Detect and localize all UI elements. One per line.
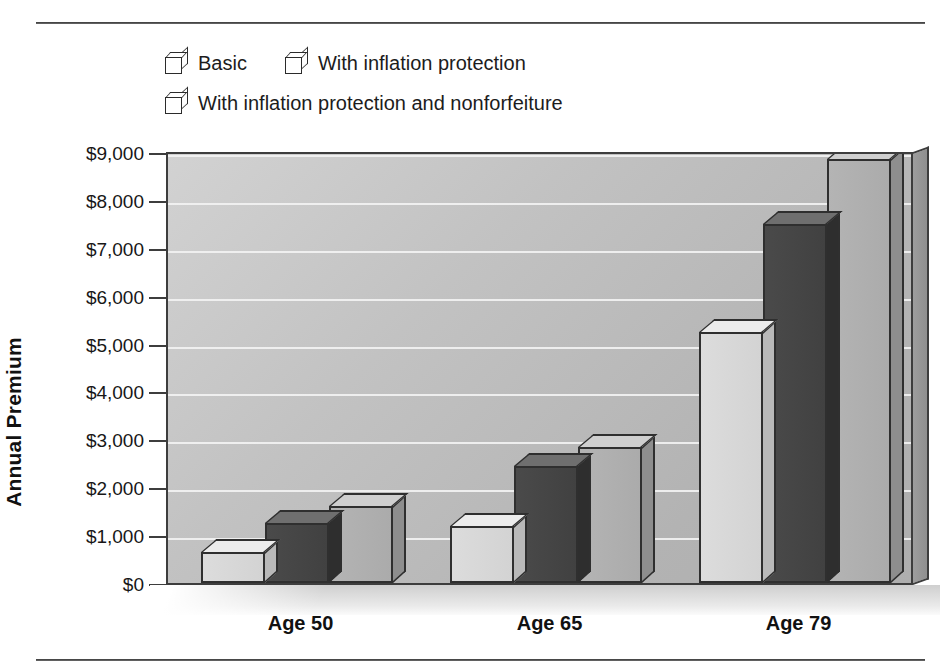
y-tick-label: $6,000 xyxy=(86,287,144,309)
top-divider-rule xyxy=(36,22,925,24)
y-tick-mark xyxy=(149,536,166,538)
plot-depth-wall xyxy=(913,146,929,585)
legend-row-2: With inflation protection and nonforfeit… xyxy=(165,86,805,120)
y-tick-mark xyxy=(149,440,166,442)
y-tick-mark xyxy=(149,392,166,394)
swatch-side-face xyxy=(182,47,188,69)
y-tick-label: $4,000 xyxy=(86,382,144,404)
legend-item-basic: Basic xyxy=(165,52,247,74)
legend-label-inflation: With inflation protection xyxy=(318,53,526,73)
y-tick-mark xyxy=(149,249,166,251)
bar-front-face xyxy=(201,552,265,583)
chart-figure: Basic With inflation protection With inf… xyxy=(0,0,945,670)
x-axis-label-age-65: Age 65 xyxy=(517,612,583,635)
y-tick-mark xyxy=(149,153,166,155)
x-axis-labels: Age 50Age 65Age 79 xyxy=(166,612,926,642)
gridline xyxy=(168,155,911,157)
legend-row-1: Basic With inflation protection xyxy=(165,46,805,80)
bar-side-face xyxy=(642,435,655,583)
y-axis: Annual Premium $9,000$8,000$7,000$6,000$… xyxy=(0,152,166,612)
y-tick-mark xyxy=(149,488,166,490)
bottom-divider-rule xyxy=(36,659,925,661)
light-gray-cube-swatch-icon xyxy=(165,52,187,74)
plot-canvas xyxy=(166,152,913,585)
legend-label-inflation-nonforfeiture: With inflation protection and nonforfeit… xyxy=(198,93,563,113)
y-tick-label: $3,000 xyxy=(86,430,144,452)
y-tick-label: $8,000 xyxy=(86,191,144,213)
swatch-front-face xyxy=(165,57,182,74)
chart-floor xyxy=(150,585,940,615)
bar-side-face xyxy=(827,212,840,583)
chart-legend: Basic With inflation protection With inf… xyxy=(165,46,805,120)
medium-gray-cube-swatch-icon xyxy=(165,92,187,114)
swatch-front-face xyxy=(165,97,182,114)
y-tick-label: $2,000 xyxy=(86,478,144,500)
legend-label-basic: Basic xyxy=(198,53,247,73)
swatch-side-face xyxy=(182,87,188,109)
bar-age-65-series-0 xyxy=(450,526,514,583)
swatch-front-face xyxy=(285,57,302,74)
plot-area xyxy=(166,152,913,585)
legend-item-inflation-nonforfeiture: With inflation protection and nonforfeit… xyxy=(165,92,563,114)
dark-gray-cube-swatch-icon xyxy=(285,52,307,74)
x-axis-label-age-50: Age 50 xyxy=(268,612,334,635)
bar-age-79-series-0 xyxy=(699,332,763,583)
bar-front-face xyxy=(699,332,763,583)
bar-front-face xyxy=(450,526,514,583)
y-axis-title: Annual Premium xyxy=(2,257,26,587)
y-tick-label: $9,000 xyxy=(86,143,144,165)
bar-side-face xyxy=(578,454,591,583)
y-tick-mark xyxy=(149,345,166,347)
y-tick-label: $1,000 xyxy=(86,526,144,548)
bar-side-face xyxy=(393,495,406,583)
gridline xyxy=(168,203,911,205)
y-tick-mark xyxy=(149,201,166,203)
legend-item-inflation: With inflation protection xyxy=(285,52,526,74)
bar-side-face xyxy=(763,320,776,583)
bar-side-face xyxy=(891,152,904,583)
y-tick-label: $5,000 xyxy=(86,335,144,357)
bar-side-face xyxy=(329,511,342,583)
x-axis-label-age-79: Age 79 xyxy=(766,612,832,635)
swatch-side-face xyxy=(302,47,308,69)
y-tick-label: $0 xyxy=(123,574,144,596)
y-tick-label: $7,000 xyxy=(86,239,144,261)
bar-age-50-series-0 xyxy=(201,552,265,583)
y-tick-mark xyxy=(149,297,166,299)
